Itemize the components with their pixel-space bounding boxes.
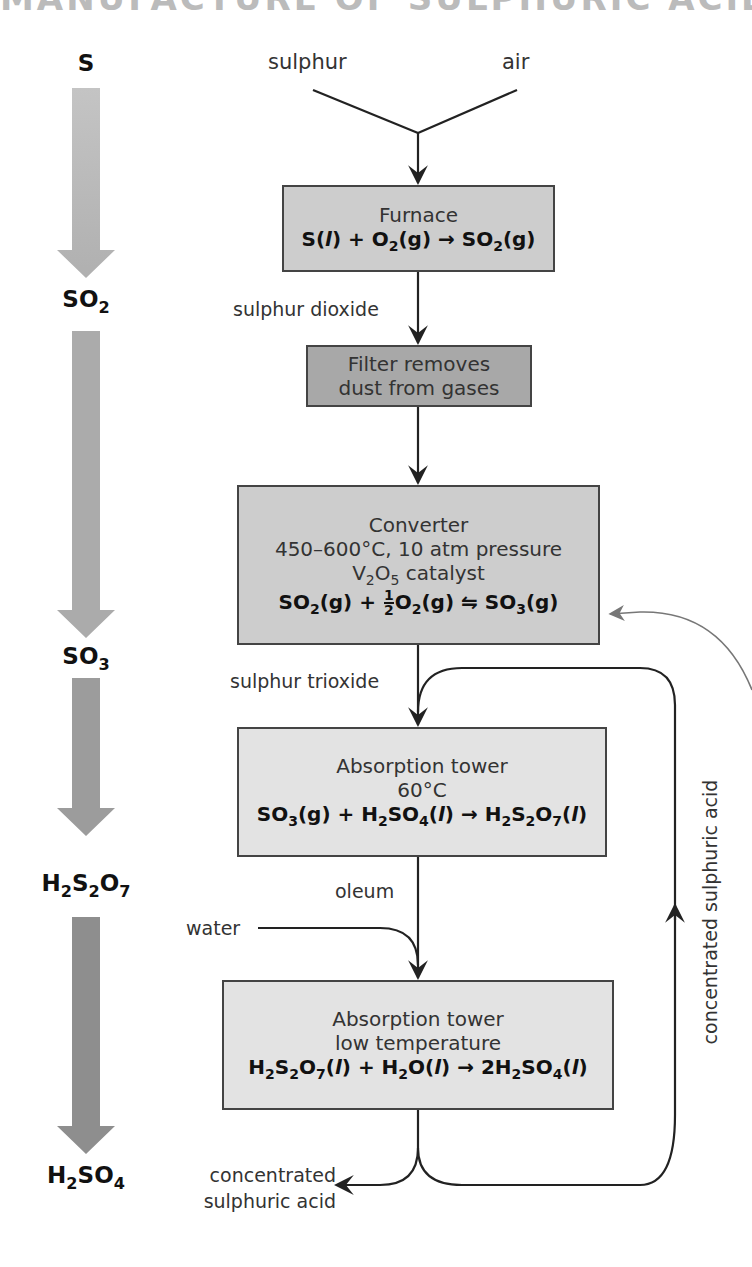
converter-conditions: 450–600°C, 10 atm pressure	[239, 537, 598, 561]
filter-line2: dust from gases	[308, 376, 530, 400]
label-recycle: concentrated sulphuric acid	[699, 780, 721, 1045]
furnace-box: Furnace S(l) + O2(g) → SO2(g)	[282, 185, 555, 272]
absorption1-title: Absorption tower	[239, 754, 605, 778]
diagram-canvas: MANUFACTURE OF SULPHURIC ACID	[0, 0, 752, 1267]
species-arrows	[57, 88, 115, 1154]
absorption-tower-1: Absorption tower 60°C SO3(g) + H2SO4(l) …	[237, 727, 607, 857]
absorption2-title: Absorption tower	[224, 1007, 612, 1031]
species-s: S	[16, 50, 156, 76]
label-sulphur-dioxide: sulphur dioxide	[233, 298, 379, 320]
absorption-tower-2: Absorption tower low temperature H2S2O7(…	[222, 980, 614, 1110]
converter-catalyst: V2O5 catalyst	[239, 561, 598, 589]
label-product-line1: concentrated	[184, 1164, 336, 1186]
absorption1-equation: SO3(g) + H2SO4(l) → H2S2O7(l)	[239, 802, 605, 830]
species-so2: SO2	[16, 286, 156, 317]
species-h2so4: H2SO4	[16, 1162, 156, 1193]
species-so3: SO3	[16, 643, 156, 674]
label-sulphur-trioxide: sulphur trioxide	[230, 670, 379, 692]
label-product-line2: sulphuric acid	[176, 1190, 336, 1212]
input-water: water	[186, 917, 240, 939]
converter-box: Converter 450–600°C, 10 atm pressure V2O…	[237, 485, 600, 645]
furnace-equation: S(l) + O2(g) → SO2(g)	[284, 227, 553, 255]
furnace-title: Furnace	[284, 203, 553, 227]
absorption1-conditions: 60°C	[239, 778, 605, 802]
label-oleum: oleum	[335, 880, 394, 902]
absorption2-equation: H2S2O7(l) + H2O(l) → 2H2SO4(l)	[224, 1055, 612, 1083]
filter-line1: Filter removes	[308, 352, 530, 376]
filter-box: Filter removes dust from gases	[306, 345, 532, 407]
input-sulphur: sulphur	[268, 50, 347, 74]
converter-equation: SO2(g) + 12O2(g) ⇋ SO3(g)	[239, 589, 598, 618]
converter-title: Converter	[239, 513, 598, 537]
absorption2-conditions: low temperature	[224, 1031, 612, 1055]
species-h2s2o7: H2S2O7	[16, 870, 156, 901]
input-air: air	[502, 50, 529, 74]
